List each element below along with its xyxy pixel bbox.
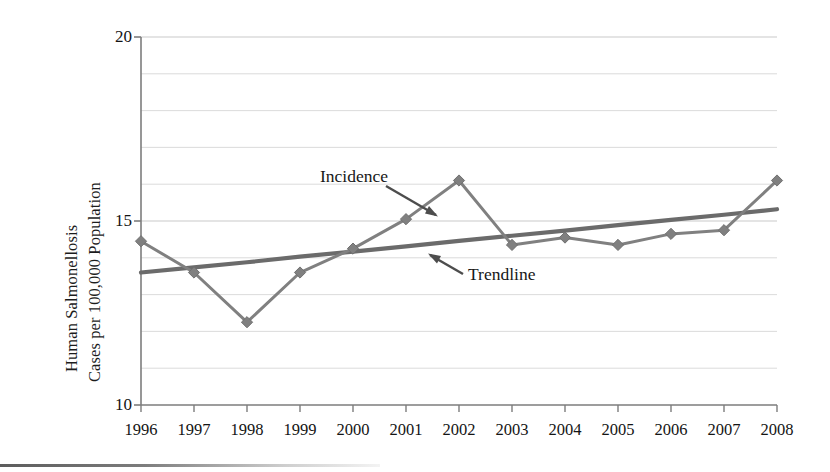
annotation-incidence: Incidence bbox=[320, 166, 388, 187]
annotation-trendline: Trendline bbox=[468, 264, 535, 285]
trendline-series bbox=[141, 209, 777, 272]
incidence-series bbox=[141, 181, 777, 323]
x-tick-label-1998: 1998 bbox=[219, 420, 275, 440]
y-axis-title-line-1: Human Salmonellosis bbox=[62, 225, 82, 372]
gridlines bbox=[141, 37, 777, 368]
page-edge-rule bbox=[0, 464, 380, 467]
incidence-markers bbox=[135, 175, 782, 328]
annotation-arrows bbox=[386, 186, 463, 274]
x-tick-label-2003: 2003 bbox=[484, 420, 540, 440]
x-tick-label-2006: 2006 bbox=[643, 420, 699, 440]
x-tick-label-2008: 2008 bbox=[749, 420, 805, 440]
chart-figure: Human Salmonellosis Cases per 100,000 Po… bbox=[0, 0, 830, 472]
incidence-arrowhead-icon bbox=[425, 206, 438, 217]
x-tick-label-2007: 2007 bbox=[696, 420, 752, 440]
y-tick-label-15: 15 bbox=[92, 211, 132, 231]
trendline-arrowhead-icon bbox=[428, 254, 441, 264]
x-tick-label-2005: 2005 bbox=[590, 420, 646, 440]
y-axis-title: Human Salmonellosis Cases per 100,000 Po… bbox=[14, 0, 106, 420]
x-tick-label-1996: 1996 bbox=[113, 420, 169, 440]
x-tick-label-1997: 1997 bbox=[166, 420, 222, 440]
x-tick-label-2001: 2001 bbox=[378, 420, 434, 440]
x-tick-label-2002: 2002 bbox=[431, 420, 487, 440]
x-tick-label-1999: 1999 bbox=[272, 420, 328, 440]
x-tick-label-2000: 2000 bbox=[325, 420, 381, 440]
y-tick-label-10: 10 bbox=[92, 395, 132, 415]
x-tick-label-2004: 2004 bbox=[537, 420, 593, 440]
axis-lines bbox=[134, 37, 777, 412]
y-tick-label-20: 20 bbox=[92, 27, 132, 47]
